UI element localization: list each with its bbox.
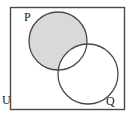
set-p-label: P: [24, 10, 31, 24]
venn-diagram-canvas: P Q U: [0, 0, 134, 119]
set-q-label: Q: [106, 94, 115, 108]
venn-diagram-figure: P Q U: [0, 0, 134, 119]
universal-set-label: U: [2, 93, 11, 107]
